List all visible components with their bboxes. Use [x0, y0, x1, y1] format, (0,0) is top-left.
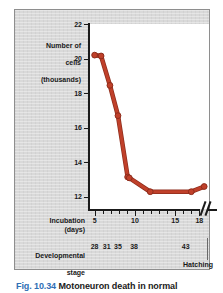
data-point-marker: [92, 52, 98, 58]
series-line-outline: [95, 55, 205, 192]
figure-number: Fig. 10.34: [16, 281, 56, 291]
figure-panel: Number of cells (thousands) Number of ce…: [14, 9, 210, 270]
data-point-marker: [188, 189, 194, 195]
data-point-marker: [147, 189, 153, 195]
series-line: [95, 55, 205, 192]
figure-root: Number of cells (thousands) Number of ce…: [0, 0, 223, 293]
data-point-marker: [126, 175, 132, 181]
data-point-marker: [201, 184, 207, 190]
data-point-marker: [115, 113, 121, 119]
data-point-marker: [98, 53, 104, 59]
figure-caption-text: Motoneuron death in normal: [58, 281, 177, 291]
data-series-layer: [15, 10, 211, 271]
data-point-marker: [107, 82, 113, 88]
figure-caption: Fig. 10.34 Motoneuron death in normal: [16, 281, 216, 292]
